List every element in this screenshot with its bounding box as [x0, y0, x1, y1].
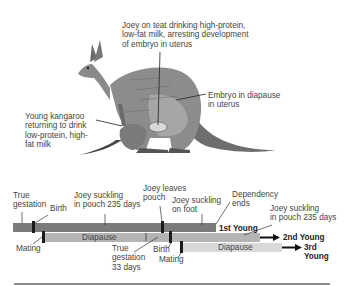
label-mating-1: Mating: [16, 244, 41, 253]
label-line: gestation: [112, 253, 145, 262]
row-label-2nd-young: 2nd Young: [283, 233, 325, 242]
label-line: Joey suckling: [172, 196, 221, 205]
label-true-gestation-2: True gestation 33 days: [112, 244, 145, 272]
label-line: True: [13, 191, 46, 200]
marker-mating-2: [180, 241, 183, 253]
callout-line: Young kangaroo: [25, 112, 88, 121]
callout-line: Joey on teat drinking high-protein,: [122, 21, 249, 30]
bar-label-diapause-2: Diapause: [82, 233, 117, 242]
marker-mating-1: [42, 231, 45, 243]
label-mating-2: Mating: [159, 255, 184, 264]
callout-line: low-fat milk, arresting development: [122, 30, 249, 39]
label-joey-suckling-foot: Joey suckling on foot: [172, 196, 221, 215]
label-line: on foot: [172, 205, 221, 214]
bar-1st-young: [13, 223, 216, 232]
arrow-2nd-young: [260, 234, 280, 241]
label-line: Dependency: [232, 190, 278, 199]
label-line: Young: [304, 252, 329, 261]
row-label-1st-young: 1st Young: [219, 224, 258, 233]
label-line: Joey leaves: [143, 184, 186, 193]
leader-young-kangaroo: [96, 120, 122, 126]
label-line: True: [112, 244, 145, 253]
label-line: in pouch 235 days: [74, 200, 140, 209]
label-birth-2: Birth: [153, 245, 170, 254]
label-line: Joey suckling: [270, 204, 336, 213]
callout-line: fat milk: [25, 140, 88, 149]
callout-line: of embryo in uterus: [122, 40, 249, 49]
callout-line: returning to drink: [25, 121, 88, 130]
label-line: 3rd: [304, 243, 329, 252]
callout-line: low-protein, high-: [25, 131, 88, 140]
label-line: Joey suckling: [74, 191, 140, 200]
callout-line: Embryo in diapause: [208, 91, 280, 100]
callout-line: in uterus: [208, 100, 280, 109]
label-line: in pouch 235 days: [270, 213, 336, 222]
marker-joey-leaves-pouch: [161, 221, 164, 233]
label-joey-suckling-pouch-1: Joey suckling in pouch 235 days: [74, 191, 140, 210]
label-joey-suckling-pouch-2: Joey suckling in pouch 235 days: [270, 204, 336, 223]
marker-birth-2: [169, 231, 172, 243]
label-birth-1: Birth: [50, 204, 67, 213]
callout-joey-on-teat: Joey on teat drinking high-protein, low-…: [122, 21, 249, 49]
label-line: 33 days: [112, 263, 145, 272]
callout-young-kangaroo: Young kangaroo returning to drink low-pr…: [25, 112, 88, 150]
arrow-3rd-young: [282, 244, 302, 251]
bar-2nd-young: [42, 233, 260, 242]
row-label-3rd-young: 3rd Young: [304, 243, 329, 262]
bar-label-diapause-3: Diapause: [218, 243, 253, 252]
label-true-gestation-1: True gestation: [13, 191, 46, 210]
marker-birth-1: [32, 221, 35, 233]
label-line: gestation: [13, 200, 46, 209]
bottom-rule: [14, 283, 330, 285]
callout-embryo-diapause: Embryo in diapause in uterus: [208, 91, 280, 110]
